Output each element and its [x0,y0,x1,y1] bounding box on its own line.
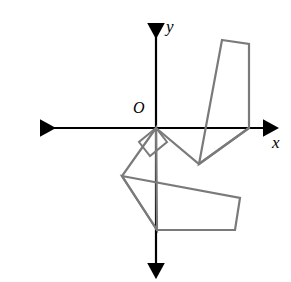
geometry-diagram: O x y [0,0,291,282]
origin-label: O [133,100,145,116]
y-axis-label: y [166,18,174,35]
coordinate-plane-canvas [0,0,291,282]
polygon-shapes-group [122,40,249,230]
x-axis-label: x [272,134,280,151]
